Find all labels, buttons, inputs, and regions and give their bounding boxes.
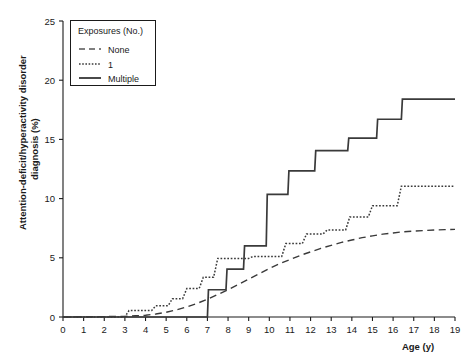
x-tick-label: 0 bbox=[60, 324, 65, 335]
x-tick-label: 3 bbox=[122, 324, 127, 335]
x-tick-label: 7 bbox=[205, 324, 210, 335]
series-line-none bbox=[63, 229, 455, 317]
x-tick-label: 12 bbox=[305, 324, 316, 335]
x-tick-label: 4 bbox=[143, 324, 148, 335]
x-tick-label: 2 bbox=[102, 324, 107, 335]
series-line-multiple bbox=[63, 99, 455, 317]
x-axis-title: Age (y) bbox=[402, 341, 434, 352]
y-tick-label: 0 bbox=[50, 312, 55, 323]
x-tick-label: 6 bbox=[184, 324, 189, 335]
x-tick-label: 15 bbox=[367, 324, 378, 335]
legend-label-none: None bbox=[108, 45, 130, 55]
x-axis-ticks: 012345678910111213141516171819 bbox=[60, 317, 460, 335]
legend-entry-multiple[interactable]: Multiple bbox=[79, 74, 139, 84]
y-tick-label: 20 bbox=[44, 75, 55, 86]
x-tick-label: 5 bbox=[164, 324, 169, 335]
x-tick-label: 17 bbox=[408, 324, 419, 335]
legend-title: Exposures (No.) bbox=[78, 26, 143, 36]
x-tick-label: 1 bbox=[81, 324, 86, 335]
x-tick-label: 16 bbox=[388, 324, 399, 335]
x-tick-label: 8 bbox=[225, 324, 230, 335]
y-axis-title-line1: Attention-deficit/hyperactivity disorder bbox=[17, 55, 28, 230]
y-tick-label: 10 bbox=[44, 193, 55, 204]
adhd-cumulative-incidence-chart: 0510152025 01234567891011121314151617181… bbox=[0, 0, 473, 364]
x-tick-label: 19 bbox=[450, 324, 461, 335]
data-series-group bbox=[63, 99, 455, 317]
legend-label-one: 1 bbox=[108, 60, 113, 70]
x-tick-label: 18 bbox=[429, 324, 440, 335]
x-tick-label: 9 bbox=[246, 324, 251, 335]
x-tick-label: 10 bbox=[264, 324, 275, 335]
y-axis-ticks: 0510152025 bbox=[44, 16, 63, 323]
y-axis-title: Attention-deficit/hyperactivity disorder… bbox=[17, 55, 40, 230]
y-tick-label: 5 bbox=[50, 252, 55, 263]
axes-group bbox=[63, 21, 455, 317]
chart-figure: 0510152025 01234567891011121314151617181… bbox=[0, 0, 473, 364]
y-tick-label: 25 bbox=[44, 16, 55, 27]
y-tick-label: 15 bbox=[44, 134, 55, 145]
legend-entry-none[interactable]: None bbox=[79, 45, 130, 55]
legend-entry-one[interactable]: 1 bbox=[79, 60, 113, 70]
y-axis-title-line2: diagnosis (%) bbox=[29, 118, 40, 180]
x-tick-label: 13 bbox=[326, 324, 337, 335]
x-tick-label: 14 bbox=[347, 324, 358, 335]
legend: Exposures (No.) None 1 Multiple bbox=[71, 21, 156, 86]
x-tick-label: 11 bbox=[285, 324, 295, 335]
series-line-1 bbox=[63, 186, 455, 317]
legend-label-multiple: Multiple bbox=[108, 74, 139, 84]
